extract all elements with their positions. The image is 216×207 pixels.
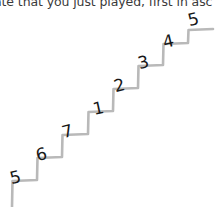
staircase-path: [12, 29, 213, 207]
figure-page: ate that you just played, first in asc 5…: [0, 0, 216, 207]
staircase-figure: 5 6 7 1 2 3 4 5: [0, 0, 216, 207]
staircase-line-drawing: [0, 0, 216, 207]
